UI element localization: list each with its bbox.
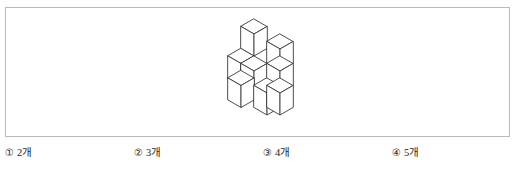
isometric-cube-stack-figure	[218, 15, 314, 127]
answer-option-4[interactable]: ④5개	[392, 145, 419, 161]
option-marker-4: ④	[392, 145, 401, 161]
option-marker-1: ①	[5, 145, 14, 161]
figure-stage	[6, 8, 509, 136]
option-marker-2: ②	[134, 145, 143, 161]
cube-front-right-lower	[267, 78, 293, 115]
figure-panel	[5, 7, 510, 137]
answer-option-3[interactable]: ③4개	[263, 145, 290, 161]
option-label-1: 2개	[17, 145, 32, 161]
answer-option-2[interactable]: ②3개	[134, 145, 161, 161]
answer-option-1[interactable]: ①2개	[5, 145, 32, 161]
question-page: ①2개 ②3개 ③4개 ④5개	[0, 0, 515, 173]
option-marker-3: ③	[263, 145, 272, 161]
option-label-4: 5개	[404, 145, 419, 161]
cube-front-left-lower	[228, 71, 254, 108]
option-label-2: 3개	[146, 145, 161, 161]
answer-options: ①2개 ②3개 ③4개 ④5개	[0, 145, 515, 169]
option-label-3: 4개	[275, 145, 290, 161]
